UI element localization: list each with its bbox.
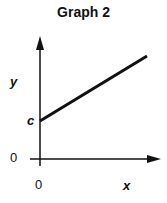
x-axis-arrow-icon [147, 155, 161, 163]
y-axis-label: y [10, 74, 17, 89]
y-axis-arrow-icon [36, 36, 44, 50]
graph-line [40, 56, 147, 121]
x-axis-label: x [123, 178, 130, 193]
y-origin-label: 0 [10, 150, 17, 165]
intercept-label: c [27, 113, 34, 128]
x-origin-label: 0 [35, 177, 42, 192]
graph-canvas [0, 0, 167, 203]
